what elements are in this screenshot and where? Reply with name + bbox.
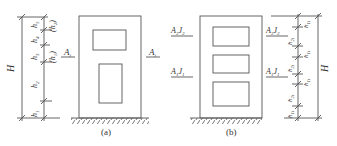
label-section-lower-left-b: A1J1 [170, 67, 184, 77]
label-h2i-middle: h2i [286, 64, 295, 72]
label-section-right-a: Ai [148, 47, 157, 58]
label-section-upper-left-b: A2J2 [170, 26, 185, 36]
label-h2: h2 [30, 81, 40, 88]
upper-opening-a [93, 30, 126, 50]
label-h3: h3 [30, 53, 40, 60]
opening-bottom-b [213, 82, 249, 106]
label-H-b: H [319, 64, 330, 73]
label-section-upper-right-b: A2J2 [265, 26, 280, 36]
ground-hatch-b [190, 118, 262, 124]
caption-b: (b) [226, 127, 237, 137]
ground-hatch-a [71, 118, 149, 124]
label-h2i-top: h2i [286, 37, 295, 45]
label-h1i-3: h1i [302, 78, 311, 86]
label-section-left-a: Ai [63, 47, 72, 58]
caption-a: (a) [101, 127, 111, 137]
figure-b [171, 13, 322, 124]
label-h4: h4 [30, 36, 40, 43]
label-h1i-4: h1i [286, 110, 295, 118]
label-h5: h5 [30, 21, 40, 28]
label-h1: h1 [30, 111, 40, 118]
label-H-a: H [5, 64, 16, 73]
wall-outline-b [200, 16, 262, 118]
label-h1i-1: h1i [302, 20, 311, 28]
opening-middle-b [213, 55, 249, 73]
label-h1i-2: h1i [302, 50, 311, 58]
structural-wall-diagram: H h1 h2 h3 h4 h5 (h2) (h1) Ai Ai (a) [0, 0, 337, 146]
label-paren-h1: (h1) [48, 51, 58, 63]
opening-top-b [213, 27, 249, 46]
figure-a [17, 14, 160, 124]
label-h2i-bottom: h2i [286, 94, 295, 102]
lower-opening-a [99, 64, 122, 103]
label-paren-h2: (h2) [48, 20, 58, 32]
label-section-lower-right-b: A1J1 [265, 67, 279, 77]
